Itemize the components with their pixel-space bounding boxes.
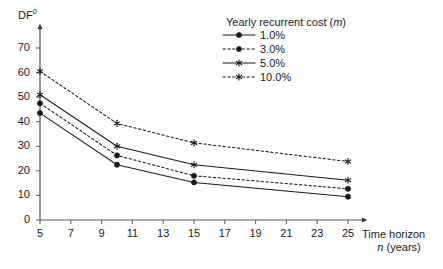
x-tick-label: 19: [246, 227, 266, 239]
y-tick-label: 60: [8, 66, 30, 78]
data-point-circle: [345, 186, 350, 191]
x-tick-label: 13: [153, 227, 173, 239]
data-point-circle: [37, 111, 42, 116]
data-point-star: [37, 68, 42, 74]
series-line: [40, 71, 348, 161]
data-point-circle: [191, 180, 196, 185]
y-tick-label: 0: [8, 213, 30, 225]
data-point-circle: [114, 153, 119, 158]
x-tick-label: 9: [92, 227, 112, 239]
data-point-circle: [37, 101, 42, 106]
x-tick-label: 11: [122, 227, 142, 239]
data-point-circle: [114, 162, 119, 167]
y-tick-label: 40: [8, 115, 30, 127]
y-tick-label: 10: [8, 188, 30, 200]
y-tick-label: 50: [8, 90, 30, 102]
x-tick-label: 25: [338, 227, 358, 239]
series-50: [37, 92, 350, 184]
x-tick-label: 23: [307, 227, 327, 239]
x-tick-label: 17: [215, 227, 235, 239]
data-point-star: [114, 120, 119, 126]
data-point-star: [345, 158, 350, 164]
data-point-circle: [191, 173, 196, 178]
x-tick-label: 15: [184, 227, 204, 239]
y-tick-label: 70: [8, 41, 30, 53]
y-tick-label: 30: [8, 139, 30, 151]
chart-figure: DF0 Time horizon n (years) Yearly recurr…: [0, 0, 443, 269]
x-tick-label: 21: [276, 227, 296, 239]
data-point-circle: [345, 194, 350, 199]
x-tick-label: 7: [61, 227, 81, 239]
x-tick-label: 5: [30, 227, 50, 239]
series-100: [37, 68, 350, 164]
y-tick-label: 20: [8, 164, 30, 176]
